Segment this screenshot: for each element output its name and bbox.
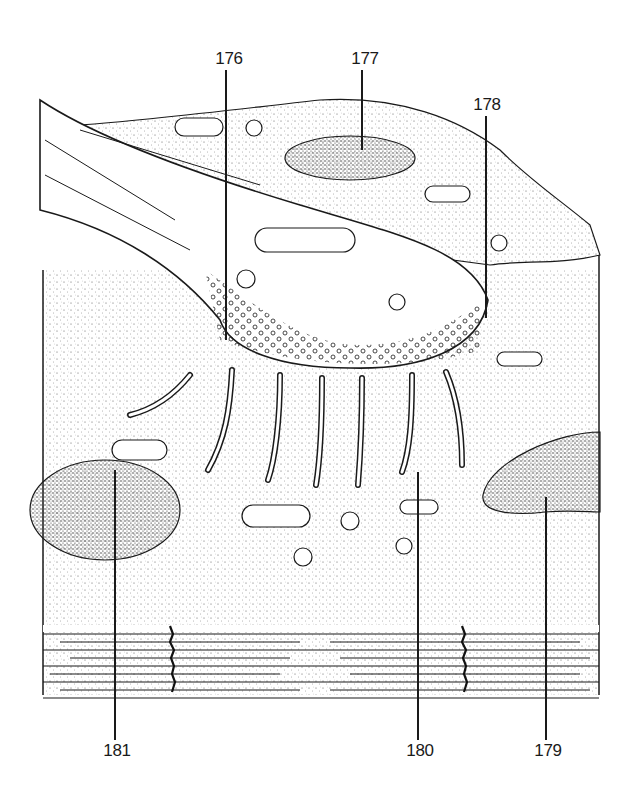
histology-figure [0, 0, 639, 801]
label-181: 181 [103, 742, 130, 759]
schwann-nucleus [285, 136, 415, 180]
label-179: 179 [534, 742, 561, 759]
label-178: 178 [473, 96, 500, 113]
nucleus-left [30, 460, 180, 560]
label-176: 176 [215, 50, 242, 67]
label-177: 177 [351, 50, 378, 67]
label-180: 180 [406, 742, 433, 759]
